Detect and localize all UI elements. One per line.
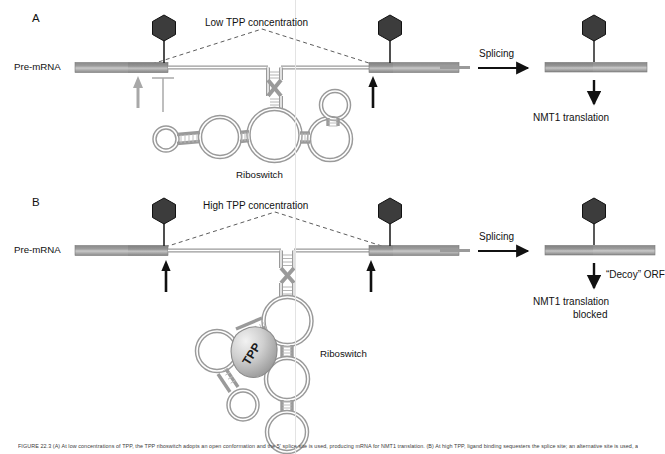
- panel-b-premrna-label: Pre-mRNA: [14, 244, 61, 255]
- panel-a-product-cap: [583, 15, 606, 62]
- panel-b-cap-right: [379, 198, 402, 246]
- panel-b-premrna-left: [75, 246, 168, 256]
- panel-b-tpp-ligand: TPP: [231, 327, 277, 378]
- panel-a-condition-label: Low TPP concentration: [205, 17, 308, 28]
- panel-b-right-black-up-arrow: [366, 260, 375, 292]
- panel-b-product-cap: [583, 198, 606, 245]
- panel-a-premrna-right: [369, 63, 470, 73]
- panel-b-outcome-line2: blocked: [573, 309, 607, 320]
- panel-a-condition-leader-lines: [152, 29, 372, 64]
- panel-a-grey-up-arrow: [133, 76, 143, 108]
- panel-b-splicing-label: Splicing: [479, 231, 514, 242]
- panel-b-letter: B: [32, 196, 40, 208]
- panel-a-cap-left: [153, 15, 176, 63]
- panel-b-graphics: TPP: [75, 198, 655, 452]
- panel-a-riboswitch-label: Riboswitch: [236, 169, 283, 180]
- panel-b-left-black-up-arrow: [161, 260, 170, 292]
- panel-a-premrna-label: Pre-mRNA: [14, 61, 61, 72]
- figure-caption: FIGURE 22.3 (A) At low concentrations of…: [18, 443, 638, 454]
- vertical-guide-line: [295, 0, 296, 454]
- panel-b-cap-left: [153, 198, 176, 246]
- panel-a-cap-right: [379, 15, 402, 63]
- panel-a-riboswitch-structure: [155, 68, 352, 162]
- panel-b-decoy-orf-label: “Decoy” ORF: [606, 269, 665, 280]
- panel-b-riboswitch-label: Riboswitch: [320, 348, 367, 359]
- panel-a-black-up-arrow: [368, 76, 377, 108]
- panel-a-grey-t-bar: [152, 78, 174, 112]
- panel-a-graphics: [75, 15, 647, 161]
- panel-a-premrna-left: [75, 63, 168, 73]
- panel-a-splicing-label: Splicing: [479, 48, 514, 59]
- panel-b-outcome-line1: NMT1 translation: [533, 296, 609, 307]
- panel-b-premrna-right: [369, 246, 470, 256]
- panel-a-letter: A: [32, 12, 40, 24]
- panel-b-condition-leader-lines: [165, 212, 385, 247]
- panel-b-product-mrna: [545, 246, 655, 256]
- panel-a-outcome-label: NMT1 translation: [533, 112, 609, 123]
- panel-a-product-mrna: [545, 63, 647, 73]
- panel-b-condition-label: High TPP concentration: [203, 200, 308, 211]
